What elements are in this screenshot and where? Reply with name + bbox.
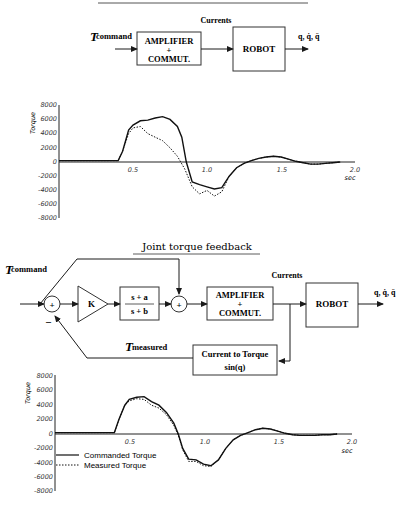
filter-numerator: s + a bbox=[131, 292, 148, 302]
chart2-x-ticks: 0.5 1.0 1.5 2.0 bbox=[125, 438, 357, 446]
chart2-ytick: -8000 bbox=[34, 487, 53, 495]
chart2-xtick: 2.0 bbox=[347, 438, 357, 446]
feedback-path bbox=[55, 316, 193, 358]
chart2-xtick: 0.5 bbox=[125, 438, 135, 446]
legend-commanded-label: Commanded Torque bbox=[84, 451, 157, 460]
top-output-label: q, q̇, q̈ bbox=[298, 32, 320, 41]
chart1-y-ticks: 8000 6000 4000 2000 0 -2000 -4000 -6000 … bbox=[38, 101, 57, 222]
chart2-y-ticks: 8000 6000 4000 2000 0 -2000 -4000 -6000 … bbox=[34, 372, 53, 495]
chart1-ytick: 2000 bbox=[40, 144, 57, 152]
chart1-ytick: 6000 bbox=[40, 115, 57, 123]
chart2-ytick: 4000 bbox=[36, 401, 53, 409]
bottom-block-diagram: Joint torque feedback T command + – K s … bbox=[5, 241, 396, 375]
chart1-xtick: 2.0 bbox=[350, 166, 360, 174]
chart1-xtick: 1.5 bbox=[277, 166, 287, 174]
chart1-x-label: sec bbox=[345, 174, 356, 182]
sum2-plus: + bbox=[176, 300, 181, 310]
converter-label-2: sin(q) bbox=[225, 362, 246, 372]
bottom-output-label: q, q̇, q̈ bbox=[374, 288, 396, 297]
chart1-ytick: 0 bbox=[53, 158, 57, 166]
chart2-y-label: Torque bbox=[24, 382, 32, 404]
top-input-subscript: command bbox=[96, 31, 132, 41]
top-block-diagram: T command AMPLIFIER + COMMUT. Currents R… bbox=[90, 3, 320, 71]
feedforward-path bbox=[40, 259, 179, 304]
chart-1: 8000 6000 4000 2000 0 -2000 -4000 -6000 … bbox=[29, 101, 360, 222]
top-amplifier-label-3: COMMUT. bbox=[148, 54, 190, 64]
chart1-ytick: -8000 bbox=[38, 214, 57, 222]
figure-canvas: T command AMPLIFIER + COMMUT. Currents R… bbox=[0, 0, 403, 506]
chart1-ytick: -4000 bbox=[38, 186, 57, 194]
chart1-ytick: 4000 bbox=[40, 129, 57, 137]
sum1-minus: – bbox=[45, 316, 52, 327]
chart2-legend: Commanded Torque Measured Torque bbox=[56, 451, 157, 470]
chart2-ytick: -4000 bbox=[34, 459, 53, 467]
chart2-xtick: 1.5 bbox=[274, 438, 284, 446]
converter-label-1: Current to Torque bbox=[202, 349, 269, 359]
chart2-x-label: sec bbox=[342, 447, 353, 455]
current-tap-path bbox=[279, 304, 290, 361]
filter-denominator: s + b bbox=[131, 306, 148, 316]
sum1-plus: + bbox=[49, 300, 54, 310]
bottom-amplifier-label-3: COMMUT. bbox=[219, 308, 261, 318]
chart-2: 8000 6000 4000 2000 0 -2000 -4000 -6000 … bbox=[24, 372, 357, 495]
top-currents-label: Currents bbox=[201, 16, 232, 25]
bottom-currents-label: Currents bbox=[272, 271, 303, 280]
chart1-ytick: -6000 bbox=[38, 200, 57, 208]
chart1-x-ticks: 0.5 1.0 1.5 2.0 bbox=[128, 166, 360, 174]
chart1-commanded-line bbox=[59, 117, 340, 189]
chart2-xtick: 1.0 bbox=[200, 438, 210, 446]
bottom-diagram-title: Joint torque feedback bbox=[141, 241, 253, 252]
chart2-ytick: 2000 bbox=[36, 415, 53, 423]
chart1-y-label: Torque bbox=[29, 112, 37, 134]
chart1-ytick: 8000 bbox=[40, 101, 57, 109]
chart1-xtick: 1.0 bbox=[202, 166, 212, 174]
legend-measured-label: Measured Torque bbox=[84, 461, 147, 470]
bottom-input-subscript: command bbox=[11, 264, 47, 274]
gain-label: K bbox=[88, 299, 95, 309]
chart2-ytick: 8000 bbox=[36, 372, 53, 380]
chart1-xtick: 0.5 bbox=[128, 166, 138, 174]
top-robot-label: ROBOT bbox=[243, 44, 276, 54]
chart2-ytick: -6000 bbox=[34, 473, 53, 481]
chart1-ytick: -2000 bbox=[38, 172, 57, 180]
bottom-robot-label: ROBOT bbox=[316, 299, 349, 309]
feedback-subscript: measured bbox=[132, 342, 168, 352]
chart2-ytick: 6000 bbox=[36, 386, 53, 394]
chart2-ytick: 0 bbox=[49, 430, 53, 438]
chart2-ytick: -2000 bbox=[34, 444, 53, 452]
